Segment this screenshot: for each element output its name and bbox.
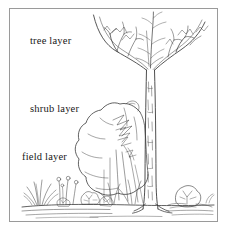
- label-shrub-layer: shrub layer: [30, 103, 79, 114]
- forest-layers-figure: tree layer shrub layer field layer: [0, 0, 229, 233]
- label-tree-layer: tree layer: [30, 35, 71, 46]
- label-field-layer: field layer: [22, 151, 67, 162]
